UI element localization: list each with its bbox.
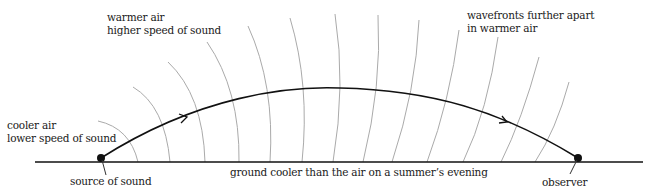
warmer-air-line1: warmer air	[107, 11, 221, 24]
wavefront-10	[427, 30, 459, 162]
wavefront-right-4	[541, 108, 568, 162]
warmer-air-line2: higher speed of sound	[107, 24, 221, 37]
observer-label: observer	[542, 176, 587, 189]
wavefronts-line2: in warmer air	[467, 22, 594, 35]
wavefronts-label: wavefronts further apart in warmer air	[467, 9, 594, 35]
ground-label: ground cooler than the air on a summer’s…	[230, 166, 488, 179]
cooler-air-line2: lower speed of sound	[7, 132, 116, 145]
warmer-air-label: warmer air higher speed of sound	[107, 11, 221, 37]
cooler-air-label: cooler air lower speed of sound	[7, 119, 116, 145]
wavefront-right-1	[501, 57, 539, 162]
source-dot	[97, 154, 105, 162]
wavefront-9	[392, 20, 419, 162]
source-label: source of sound	[70, 175, 151, 188]
wavefront-13	[470, 80, 500, 162]
observer-dot	[574, 154, 582, 162]
wavefronts-line1: wavefronts further apart	[467, 9, 594, 22]
cooler-air-line1: cooler air	[7, 119, 116, 132]
wavefront-3	[168, 62, 205, 162]
